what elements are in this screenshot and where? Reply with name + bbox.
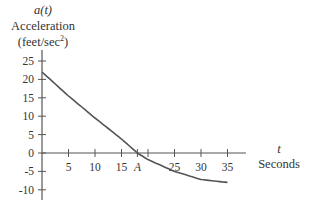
y-tick-label: 20 [23,73,35,85]
y-tick-label: 25 [23,55,35,67]
axes [42,50,246,200]
y-tick-label: 5 [28,129,34,141]
x-tick-label: 15 [116,161,128,173]
y-tick-label: -5 [24,165,34,177]
x-tick-label: 5 [66,161,72,173]
x-tick-label: 30 [195,161,207,173]
y-tick-label: 0 [28,147,34,159]
x-tick-label: 35 [222,161,234,173]
x-tick-label: A [133,161,142,173]
y-tick-label: 15 [23,92,35,104]
y-tick-label: -10 [19,184,35,196]
ticks: 2520151050-5-1051015A253035 [19,55,234,196]
chart-plot-area: 2520151050-5-1051015A253035 [0,0,309,209]
y-tick-label: 10 [23,110,35,122]
x-tick-label: 10 [89,161,101,173]
